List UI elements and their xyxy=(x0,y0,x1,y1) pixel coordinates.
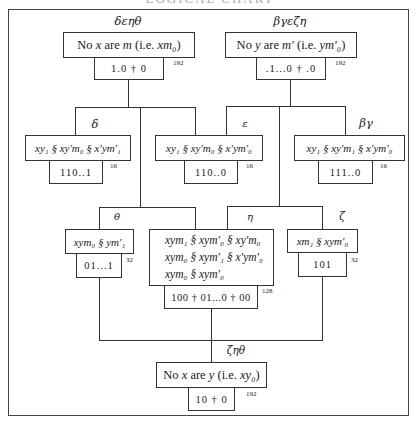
count-conclusion: 192 xyxy=(246,390,257,398)
node-label-eta: η xyxy=(243,211,257,222)
premise-var: m′ xyxy=(282,38,294,53)
premise-box-top-right: No y are m′ (i.e. ym′₀) xyxy=(225,32,357,58)
count-theta: 32 xyxy=(126,256,133,264)
connector xyxy=(322,276,323,340)
premise-text: are xyxy=(101,38,123,53)
count-top-right: 192 xyxy=(335,59,346,67)
premise-text: (i.e. xyxy=(294,38,320,53)
node-label-delta: δ xyxy=(85,117,105,131)
premise-var: m xyxy=(123,38,132,53)
premise-text: No xyxy=(163,368,181,383)
formula-line: xym₀ § xym′₁ § x′ym′₀ xyxy=(165,249,263,266)
code-box-delta: 110..1 xyxy=(49,160,103,184)
connector xyxy=(128,79,129,107)
premise-code: xy₀ xyxy=(240,368,255,383)
count-epsilon: 16 xyxy=(246,162,253,170)
connector xyxy=(226,106,346,107)
connector xyxy=(211,308,212,362)
connector xyxy=(227,206,228,229)
connector xyxy=(195,107,196,135)
node-label-top-left: δεηθ xyxy=(103,14,153,28)
premise-code: xm₀ xyxy=(158,38,177,53)
count-top-left: 192 xyxy=(173,59,184,67)
node-label-zeta: ζ xyxy=(335,210,349,222)
connector xyxy=(322,206,323,229)
connector xyxy=(99,207,196,208)
connector xyxy=(279,106,280,206)
premise-text: (i.e. xyxy=(214,368,240,383)
premise-text: No xyxy=(77,38,95,53)
node-label-top-right: βγεζη xyxy=(260,14,320,28)
connector xyxy=(345,106,346,135)
chart-heading: LOGICAL CHART xyxy=(140,0,280,7)
node-label-theta: θ xyxy=(110,211,124,222)
connector xyxy=(290,79,291,106)
count-zeta: 32 xyxy=(351,256,358,264)
premise-text: ) xyxy=(341,38,345,53)
connector xyxy=(226,106,227,135)
code-box-top-left: 1.0 † 0 xyxy=(94,57,164,80)
code-box-theta: 01...1 xyxy=(76,253,122,278)
premise-text: ) xyxy=(256,368,260,383)
premise-text: (i.e. xyxy=(132,38,158,53)
premise-box-top-left: No x are m (i.e. xm₀) xyxy=(63,32,195,58)
formula-box-epsilon: xy₁ § xy′m₀ § x′ym′₀ xyxy=(155,135,263,161)
premise-text: ) xyxy=(176,38,180,53)
code-box-top-right: .1...0 † .0 xyxy=(256,57,326,80)
premise-text: No xyxy=(237,38,255,53)
connector xyxy=(99,277,100,341)
formula-box-delta: xy₁ § xy′m₀ § x′ym′₁ xyxy=(25,135,131,161)
code-box-eta: 100 † 01...0 † 00 xyxy=(164,285,258,309)
connector xyxy=(99,207,100,229)
conclusion-box: No x are y (i.e. xy₀) xyxy=(156,362,267,388)
formula-box-zeta: xm₁ § xym′₀ xyxy=(287,229,358,253)
connector xyxy=(75,107,76,135)
node-label-conclusion: ζηθ xyxy=(221,344,251,356)
connector xyxy=(195,207,196,229)
node-label-epsilon: ε xyxy=(238,118,252,129)
node-label-beta-gamma: βγ xyxy=(354,116,378,130)
formula-line: xym₁ § xym′₀ § xy′m₀ xyxy=(165,232,261,249)
code-box-epsilon: 110..0 xyxy=(184,160,238,184)
formula-box-eta: xym₁ § xym′₀ § xy′m₀ xym₀ § xym′₁ § x′ym… xyxy=(149,229,274,286)
formula-line: xym₀ § xym′₀ xyxy=(165,266,224,283)
code-box-beta-gamma: 111..0 xyxy=(318,160,373,184)
premise-code: ym′₀ xyxy=(320,38,342,53)
connector xyxy=(227,206,323,207)
connector xyxy=(75,107,196,108)
formula-box-beta-gamma: xy₁ § xy′m₁ § x′ym′₀ xyxy=(294,135,405,161)
premise-text: are xyxy=(261,38,283,53)
count-eta: 128 xyxy=(262,287,273,295)
code-box-conclusion: 10 † 0 xyxy=(188,387,235,411)
connector xyxy=(140,107,141,207)
count-beta-gamma: 16 xyxy=(380,162,387,170)
premise-text: are xyxy=(187,368,209,383)
formula-box-theta: xym₀ § ym′₁ xyxy=(65,229,134,254)
code-box-zeta: 101 xyxy=(298,252,347,277)
count-delta: 16 xyxy=(110,162,117,170)
